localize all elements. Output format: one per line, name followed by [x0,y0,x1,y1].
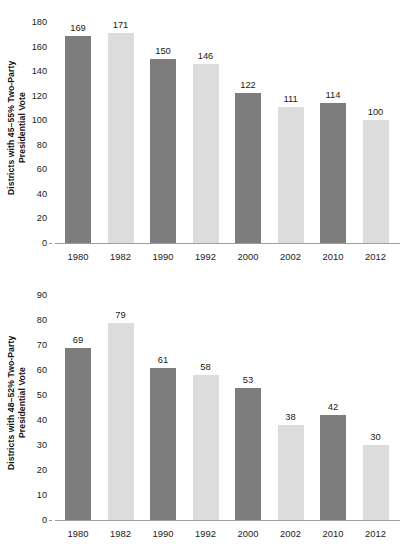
bar-2012 [363,445,389,520]
y-tick-label: 80 [37,140,47,150]
y-axis-title-bottom: Districts with 48–52% Two-Party Presiden… [6,305,30,500]
x-tick-label: 1980 [58,528,98,539]
y-tick-label: 80 [37,315,47,325]
bar-2010 [320,103,346,243]
bar-1992 [193,375,219,520]
y-tick-label: 140 [32,66,47,76]
bar-1980 [65,348,91,521]
y-axis-title-top: Districts with 45–55% Two-Party Presiden… [6,38,30,218]
y-tick-label: 50 [37,390,47,400]
y-tick-label: 120 [32,91,47,101]
bar-2000 [235,93,261,243]
bar-value-label: 69 [58,334,98,345]
y-tick-label: 60 [37,365,47,375]
x-tick-label: 2000 [228,251,268,262]
chart-page: Districts with 45–55% Two-Party Presiden… [0,0,405,546]
x-tick-label: 2002 [271,251,311,262]
bar-value-label: 100 [356,106,396,117]
x-tick-label: 1992 [186,251,226,262]
x-tick-label: 2000 [228,528,268,539]
y-tick-label: 180 [32,17,47,27]
bar-value-label: 58 [186,361,226,372]
bar-2002 [278,107,304,243]
bar-2012 [363,120,389,243]
y-tick-label: 20 [37,465,47,475]
bar-value-label: 146 [186,50,226,61]
bar-value-label: 30 [356,431,396,442]
y-tick-label: 70 [37,340,47,350]
x-tick-label: 1982 [101,251,141,262]
bar-value-label: 150 [143,45,183,56]
bar-value-label: 111 [271,93,311,104]
bar-value-label: 61 [143,354,183,365]
x-axis-line-top [55,243,400,244]
bar-1982 [108,33,134,243]
bar-1990 [150,59,176,243]
bar-2002 [278,425,304,520]
x-axis-line-bottom [55,520,400,521]
y-tick-label: 100 [32,115,47,125]
y-tick-mark [49,243,52,244]
bar-value-label: 114 [313,89,353,100]
bar-2010 [320,415,346,520]
plot-area-bottom: 6919807919826119905819925320003820024220… [55,273,400,521]
x-tick-label: 2010 [313,528,353,539]
y-tick-mark [49,520,52,521]
x-tick-label: 2010 [313,251,353,262]
x-tick-label: 1990 [143,251,183,262]
bar-2000 [235,388,261,521]
y-tick-label: 60 [37,164,47,174]
x-tick-label: 1982 [101,528,141,539]
bar-1992 [193,64,219,243]
chart-panel-top: Districts with 45–55% Two-Party Presiden… [0,0,405,273]
bar-value-label: 79 [101,309,141,320]
y-tick-label: 160 [32,42,47,52]
x-tick-label: 1990 [143,528,183,539]
y-tick-label: 0 [42,238,47,248]
y-tick-label: 40 [37,415,47,425]
x-tick-label: 2012 [356,528,396,539]
bar-value-label: 53 [228,374,268,385]
y-tick-label: 10 [37,490,47,500]
y-tick-label: 90 [37,290,47,300]
bar-1982 [108,323,134,521]
bar-value-label: 38 [271,411,311,422]
bar-value-label: 169 [58,22,98,33]
bar-value-label: 122 [228,79,268,90]
x-tick-label: 2012 [356,251,396,262]
bar-value-label: 42 [313,401,353,412]
y-tick-label: 20 [37,213,47,223]
bar-1990 [150,368,176,521]
chart-panel-bottom: Districts with 48–52% Two-Party Presiden… [0,273,405,546]
bar-value-label: 171 [101,19,141,30]
plot-area-top: 1691980171198215019901461992122200011120… [55,0,400,244]
y-tick-label: 0 [42,515,47,525]
x-tick-label: 1980 [58,251,98,262]
x-tick-label: 2002 [271,528,311,539]
y-tick-label: 40 [37,189,47,199]
x-tick-label: 1992 [186,528,226,539]
y-tick-label: 30 [37,440,47,450]
bar-1980 [65,36,91,243]
